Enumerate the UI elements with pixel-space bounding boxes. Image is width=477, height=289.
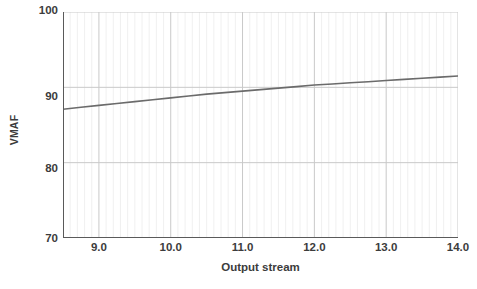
x-axis-tick-label: 12.0 (291, 241, 337, 253)
x-axis-tick-label: 14.0 (435, 241, 477, 253)
y-axis-tick-label: 80 (14, 162, 58, 174)
x-axis-tick-label: 11.0 (220, 241, 266, 253)
y-axis-tick-label: 100 (14, 4, 58, 16)
plot-area (63, 12, 458, 238)
chart-figure: 100 90 80 70 9.010.011.012.013.014.0 VMA… (0, 0, 477, 289)
x-axis-tick-label: 13.0 (363, 241, 409, 253)
data-series-line (63, 12, 458, 238)
y-axis-title: VMAF (8, 100, 20, 160)
x-axis-title: Output stream (63, 261, 458, 273)
x-axis-tick-label: 9.0 (76, 241, 122, 253)
y-axis-tick-label: 90 (14, 90, 58, 102)
x-axis-tick-label: 10.0 (148, 241, 194, 253)
y-axis-tick-label: 70 (14, 232, 58, 244)
